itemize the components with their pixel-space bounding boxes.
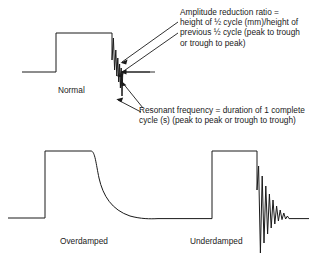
annotation-amplitude-line-2: height of ½ cycle (mm)/height of: [180, 17, 300, 27]
annotation-resonant-frequency: Resonant frequency = duration of 1 compl…: [139, 105, 305, 125]
normal-trace-path: [22, 33, 150, 96]
waveform-label-normal: Normal: [58, 85, 85, 95]
leader-line-amplitude-upper: [122, 22, 178, 62]
annotation-amplitude-reduction: Amplitude reduction ratio = height of ½ …: [180, 7, 300, 48]
annotation-amplitude-line-4: or trough to peak): [180, 38, 300, 48]
overdamped-trace-path: [8, 151, 212, 219]
leader-group-amplitude: [117, 22, 179, 78]
waveform-normal: [22, 33, 150, 96]
arrowhead-resonant-upper: [121, 81, 127, 87]
waveform-overdamped: [8, 151, 212, 219]
annotation-resonant-line-2: cycle (s) (peak to peak or trough to tro…: [139, 115, 305, 125]
leader-line-amplitude-lower: [118, 33, 178, 75]
waveform-label-overdamped: Overdamped: [60, 236, 108, 246]
annotation-amplitude-line-1: Amplitude reduction ratio =: [180, 7, 300, 17]
arrowhead-resonant-lower: [116, 98, 123, 103]
figure-root: Amplitude reduction ratio = height of ½ …: [0, 0, 317, 280]
waveform-label-underdamped: Underdamped: [190, 236, 243, 246]
annotation-amplitude-line-3: previous ½ cycle (peak to trough: [180, 27, 300, 37]
annotation-resonant-line-1: Resonant frequency = duration of 1 compl…: [139, 105, 305, 115]
